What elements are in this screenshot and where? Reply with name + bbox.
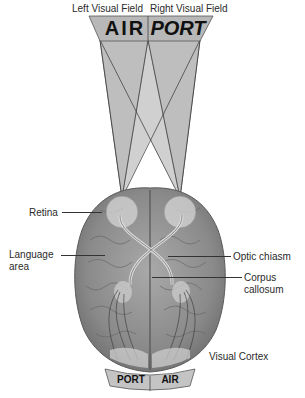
optic-chiasm-leader-line: [168, 256, 231, 257]
retina-label: Retina: [29, 207, 58, 218]
visual-cortex-label: Visual Cortex: [209, 351, 268, 362]
left-visual-field-label: Left Visual Field: [72, 3, 143, 14]
sign-top-left-word: AIR: [104, 17, 146, 39]
sign-bottom-right-word: AIR: [152, 374, 188, 386]
sign-top-right-word: PORT: [150, 17, 206, 39]
corpus-callosum-label-line1: Corpus: [244, 272, 276, 283]
language-area-leader-line: [61, 255, 105, 256]
language-area-label-line2: area: [9, 261, 29, 272]
right-visual-field-label: Right Visual Field: [150, 3, 228, 14]
retina-leader-line: [62, 212, 102, 213]
brain: [75, 188, 226, 372]
visual-pathway-diagram: [0, 0, 305, 398]
visual-field-cones: [100, 40, 200, 198]
sign-bottom-left-word: PORT: [113, 374, 149, 386]
language-area-label-line1: Language: [9, 249, 54, 260]
corpus-callosum-leader-line: [152, 277, 242, 278]
optic-chiasm-label: Optic chiasm: [233, 251, 291, 262]
corpus-callosum-label-line2: callosum: [244, 284, 283, 295]
